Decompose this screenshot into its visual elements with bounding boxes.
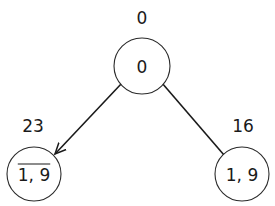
node-right-value: 16: [232, 118, 254, 135]
node-left-label-negated: 1, 9: [18, 167, 50, 184]
node-left-value: 23: [22, 118, 44, 135]
node-right-label: 1, 9: [226, 167, 258, 184]
edge-root-to-left-arrow: [55, 83, 122, 154]
node-root-label: 0: [137, 59, 148, 76]
edge-root-to-right: [162, 83, 224, 155]
node-root-value: 0: [137, 10, 148, 27]
